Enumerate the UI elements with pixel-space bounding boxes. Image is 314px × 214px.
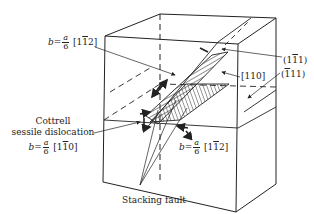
cottrell-line1: Cottrell <box>10 117 96 126</box>
crystal-cube-diagram <box>0 0 314 214</box>
denominator: 6 <box>194 148 199 156</box>
equals: = <box>34 142 42 152</box>
leader-lines <box>94 47 282 185</box>
vec-post: 2] <box>88 37 97 47</box>
vec-pre: [1 <box>73 37 82 47</box>
plane-pre: (1 <box>283 55 292 65</box>
cottrell-line2: sessile dislocation <box>10 128 96 137</box>
vec-pre: [1 <box>53 142 62 152</box>
vec-post: 0] <box>68 142 77 152</box>
fraction: a6 <box>43 139 50 156</box>
plane-label-1m11: (111) <box>283 56 307 65</box>
plane-post: 11) <box>290 69 305 79</box>
equals: = <box>185 142 193 152</box>
fraction: a6 <box>62 34 69 51</box>
cottrell-label: Cottrell sessile dislocation b=a6 [110] <box>10 117 96 156</box>
fraction: a6 <box>193 139 200 156</box>
denominator: 6 <box>63 43 68 51</box>
vec-pre: [1 <box>204 142 213 152</box>
burgers-vector-label-bottom: b=a6 [112] <box>179 139 228 156</box>
plane-post: 1) <box>298 55 307 65</box>
direction-label-110: [110] <box>241 72 265 81</box>
vec-post: 2] <box>219 142 228 152</box>
cottrell-burgers: b=a6 [110] <box>10 139 96 156</box>
stacking-fault-label: Stacking fault <box>122 196 186 205</box>
burgers-vector-label-top: b=a6 [112] <box>48 34 97 51</box>
plane-label-m111: (111) <box>281 70 305 79</box>
equals: = <box>54 37 62 47</box>
denominator: 6 <box>44 148 49 156</box>
